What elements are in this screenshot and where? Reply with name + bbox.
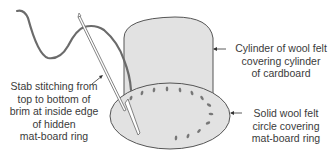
thread-icon [17, 11, 131, 90]
hat-construction-diagram: Cylinder of wool felt covering cylinder … [0, 0, 336, 158]
stab-label-line: brim at inside edge [2, 105, 106, 118]
stab-label-line: mat-board ring [2, 130, 106, 143]
stab-stitching-label: Stab stitching from top to bottom of bri… [2, 80, 106, 143]
circle-label-line: circle covering [236, 120, 336, 133]
cylinder-label-line: Cylinder of wool felt [226, 42, 336, 55]
felt-brim-circle [110, 83, 230, 149]
cylinder-label-line: of cardboard [226, 67, 336, 80]
circle-label: Solid wool felt circle covering mat-boar… [236, 107, 336, 145]
cylinder-label: Cylinder of wool felt covering cylinder … [226, 42, 336, 80]
stab-label-line: top to bottom of [2, 93, 106, 106]
stab-label-line: of hidden [2, 118, 106, 131]
circle-label-line: mat-board ring [236, 132, 336, 145]
circle-label-line: Solid wool felt [236, 107, 336, 120]
stab-label-line: Stab stitching from [2, 80, 106, 93]
cylinder-label-line: covering cylinder [226, 55, 336, 68]
leader-arrow-cylinder [213, 47, 226, 51]
